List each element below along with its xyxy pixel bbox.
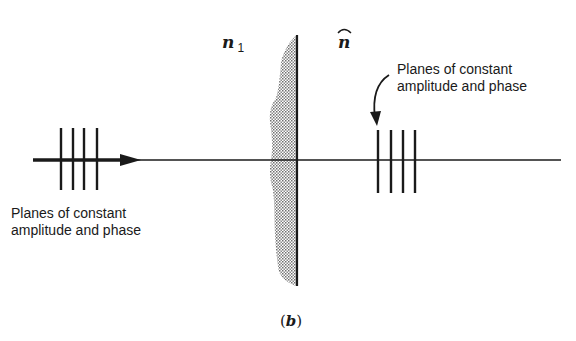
incident-planes-annotation: Planes of constant amplitude and phase	[11, 205, 141, 239]
caption-close-paren: )	[296, 312, 302, 330]
normal-vector-label: n	[338, 32, 350, 52]
normal-vector-symbol: n	[338, 32, 350, 52]
diagram-canvas	[0, 0, 576, 341]
figure-caption: (b)	[280, 312, 302, 330]
wave-interface-diagram: n1 n Planes of constant amplitude and ph…	[0, 0, 576, 341]
caption-letter: b	[286, 312, 297, 330]
annotation-line-2: amplitude and phase	[397, 78, 527, 95]
annotation-line-2: amplitude and phase	[11, 222, 141, 239]
medium-index-subscript: 1	[237, 41, 244, 55]
annotation-line-1: Planes of constant	[11, 205, 141, 222]
incident-arrow-head-icon	[120, 154, 141, 166]
transmitted-planes	[378, 130, 415, 193]
transmitted-planes-annotation: Planes of constant amplitude and phase	[397, 61, 527, 95]
medium-index-label: n1	[222, 32, 244, 52]
annotation-line-1: Planes of constant	[397, 61, 527, 78]
medium-index-symbol: n	[222, 32, 234, 52]
pointer-arrow-head-icon	[370, 111, 381, 126]
